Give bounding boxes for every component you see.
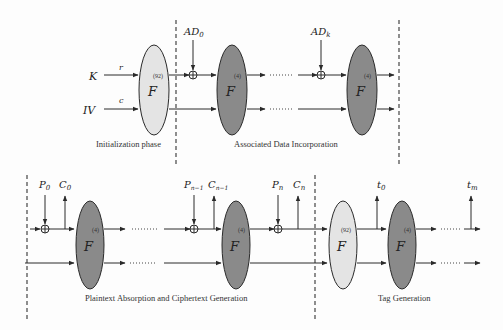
- cn-label: Cn: [293, 179, 306, 192]
- permutation-label: F: [147, 84, 158, 99]
- round-count: (4): [238, 227, 245, 234]
- permutation-label: F: [355, 84, 366, 99]
- final-permutation: F (92): [329, 201, 357, 289]
- round-count: (4): [92, 227, 99, 234]
- tm-label: tm: [467, 179, 478, 192]
- permutation-label: F: [83, 239, 94, 254]
- ad-permutation-2: F (4): [347, 45, 377, 135]
- key-label: K: [88, 70, 98, 83]
- c0-label: C0: [59, 179, 72, 192]
- permutation-label: F: [336, 239, 347, 254]
- round-count: (4): [364, 73, 371, 80]
- capacity-label: c: [119, 96, 124, 105]
- round-count: (92): [341, 227, 351, 234]
- round-count: (4): [234, 73, 241, 80]
- init-permutation: F (92): [139, 45, 169, 135]
- rate-label: r: [119, 63, 124, 72]
- permutation-label: F: [225, 84, 236, 99]
- t0-label: t0: [377, 179, 386, 192]
- permutation-label: F: [229, 239, 240, 254]
- caption-initialization: Initialization phase: [96, 139, 161, 149]
- round-count: (4): [404, 227, 411, 234]
- round-count: (92): [153, 73, 163, 80]
- iv-label: IV: [82, 104, 96, 117]
- encrypt-permutation-1: F (4): [76, 201, 104, 289]
- top-row: K IV r c F (92) AD0 F (4): [82, 20, 399, 165]
- ad-permutation-1: F (4): [217, 45, 247, 135]
- sponge-construction-diagram: K IV r c F (92) AD0 F (4): [0, 0, 503, 330]
- tag-permutation: F (4): [388, 201, 416, 289]
- caption-tag-generation: Tag Generation: [378, 293, 431, 303]
- p0-label: P0: [38, 179, 51, 192]
- caption-encryption: Plaintext Absorption and Ciphertext Gene…: [85, 293, 248, 303]
- pn-1-label: Pn−1: [183, 179, 203, 191]
- adk-label: ADk: [310, 26, 331, 39]
- cn-1-label: Cn−1: [208, 179, 228, 191]
- pn-label: Pn: [271, 179, 284, 192]
- encrypt-permutation-2: F (4): [222, 201, 250, 289]
- caption-associated-data: Associated Data Incorporation: [234, 139, 339, 149]
- ad0-label: AD0: [183, 26, 204, 39]
- bottom-row: P0 C0 F (4) Pn−1 Cn−1 F (4: [25, 175, 480, 320]
- permutation-label: F: [395, 239, 406, 254]
